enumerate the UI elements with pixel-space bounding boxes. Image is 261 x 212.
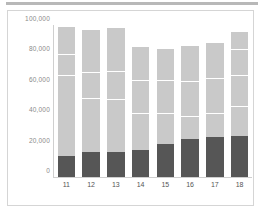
bar-segment (58, 26, 75, 54)
x-axis-tick-label: 13 (112, 181, 120, 188)
bar-column[interactable] (58, 26, 75, 177)
bar-segment (231, 49, 248, 75)
bar-segment (107, 27, 124, 72)
x-axis-label-group: 1112131415161718 (54, 181, 252, 197)
plot-area: 020,00040,00060,00080,000100,000 (54, 25, 252, 177)
chart-frame: 020,00040,00060,00080,000100,000 1112131… (7, 10, 254, 206)
bar-segment (157, 144, 174, 177)
bar-column[interactable] (132, 46, 149, 177)
bar-segment (132, 113, 149, 149)
bar-segment (107, 71, 124, 98)
bar-segment (181, 81, 198, 116)
bar-group (54, 25, 252, 177)
bar-segment (82, 98, 99, 153)
bar-segment (82, 29, 99, 72)
bar-segment (107, 152, 124, 177)
y-axis-tick-label: 60,000 (29, 75, 50, 82)
x-axis-line (53, 177, 252, 178)
bar-segment (231, 106, 248, 136)
x-axis-tick-label: 17 (211, 181, 219, 188)
x-axis-tick-label: 11 (63, 181, 70, 188)
bar-segment (132, 80, 149, 113)
y-axis-tick-label: 40,000 (29, 106, 50, 113)
bar-segment (132, 150, 149, 177)
bar-column[interactable] (181, 45, 198, 177)
bar-segment (107, 99, 124, 152)
bar-segment (157, 80, 174, 113)
bar-column[interactable] (157, 48, 174, 177)
bar-segment (58, 54, 75, 75)
bar-segment (206, 137, 223, 177)
x-axis-tick-label: 14 (137, 181, 145, 188)
bar-column[interactable] (231, 31, 248, 177)
bar-column[interactable] (82, 29, 99, 177)
chart-screenshot: 020,00040,00060,00080,000100,000 1112131… (0, 0, 261, 212)
y-axis-tick-label: 20,000 (29, 136, 50, 143)
bar-segment (206, 113, 223, 137)
bar-segment (206, 78, 223, 113)
top-divider-strip (6, 2, 258, 5)
bar-segment (157, 113, 174, 143)
bar-segment (58, 156, 75, 177)
x-axis-tick-label: 15 (161, 181, 169, 188)
bar-segment (231, 31, 248, 49)
bar-segment (58, 75, 75, 156)
bar-column[interactable] (206, 42, 223, 177)
bar-segment (231, 75, 248, 105)
x-axis-tick-label: 18 (236, 181, 244, 188)
bar-segment (181, 139, 198, 177)
y-axis-tick-label: 100,000 (25, 15, 50, 22)
x-axis-tick-label: 12 (87, 181, 95, 188)
x-axis-tick-label: 16 (186, 181, 194, 188)
y-axis-tick-label: 80,000 (29, 45, 50, 52)
bar-segment (206, 42, 223, 78)
bar-segment (132, 46, 149, 80)
bar-segment (181, 45, 198, 81)
bar-column[interactable] (107, 27, 124, 177)
bar-segment (82, 72, 99, 98)
bar-segment (157, 48, 174, 80)
y-axis-tick-label: 0 (46, 167, 50, 174)
bar-segment (231, 136, 248, 177)
bar-segment (82, 152, 99, 177)
bar-segment (181, 116, 198, 139)
